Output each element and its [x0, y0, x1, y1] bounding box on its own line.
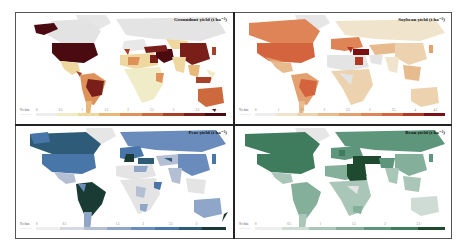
legend-tick: 1.5	[301, 108, 305, 112]
legend-ticks: 0 0.5 1 1.5 2 2.5 3+	[36, 222, 226, 226]
soybean-yield-map-panel: Soybean yield (t ha⁻¹) No data ———— 0 1 …	[235, 13, 451, 124]
legend-tick: 0	[255, 222, 257, 226]
legend-color-bar	[255, 113, 445, 116]
legend-tick: 0.5	[63, 222, 67, 226]
legend-ticks: 0 0.5 1 1.5 2 2.5+	[255, 222, 445, 226]
panel-title: Bean yield (t ha⁻¹)	[405, 129, 445, 135]
legend-tick: 1.5	[104, 108, 108, 112]
legend-tick: 2	[142, 222, 144, 226]
panel-title: Groundnut yield (t ha⁻¹)	[174, 16, 227, 22]
bean-yield-map-panel: Bean yield (t ha⁻¹) No data ———— 0 0.5 1…	[235, 126, 451, 238]
legend-tick: 3	[173, 108, 175, 112]
horizontal-panel-divider	[15, 124, 452, 126]
legend-tick: 2	[323, 108, 325, 112]
color-legend: No data ———— 0 1 1.5 2 2.5 3 3.5 4 4.5	[239, 108, 447, 118]
legend-color-bar	[255, 227, 445, 230]
color-legend: No data ———— 0 0.5 1 1.5 2 2.5+	[239, 222, 447, 232]
legend-tick: 1	[278, 108, 280, 112]
no-data-swatch-label: ————	[239, 112, 251, 116]
legend-tick: 4	[415, 108, 417, 112]
legend-tick: 2.5	[346, 108, 350, 112]
legend-tick: 1	[89, 222, 91, 226]
legend-ticks: 0 0.5 1 1.5 2 2.5 3 3.5 4+	[36, 108, 226, 112]
legend-tick: 3.5	[196, 108, 200, 112]
panel-title: Peas yield (t ha⁻¹)	[188, 129, 227, 135]
legend-tick: 1.5	[116, 222, 120, 226]
color-legend: No data ———— 0 0.5 1 1.5 2 2.5 3+	[20, 222, 228, 232]
legend-tick: 0	[255, 108, 257, 112]
no-data-swatch-label: ————	[239, 226, 251, 230]
legend-tick: 1	[320, 222, 322, 226]
legend-tick: 0	[36, 222, 38, 226]
legend-tick: 3+	[196, 222, 199, 226]
legend-tick: 2.5	[150, 108, 154, 112]
legend-ticks: 0 1 1.5 2 2.5 3 3.5 4 4.5	[255, 108, 445, 112]
legend-tick: 3.5	[392, 108, 396, 112]
legend-tick: 4.5	[434, 108, 438, 112]
legend-tick: 2	[127, 108, 129, 112]
legend-tick: 3	[369, 108, 371, 112]
peas-yield-map-panel: Peas yield (t ha⁻¹) No data ———— 0 0.5 1…	[16, 126, 233, 238]
legend-tick: 0.5	[287, 222, 291, 226]
legend-tick: 4+	[215, 108, 218, 112]
panel-title: Soybean yield (t ha⁻¹)	[398, 16, 445, 22]
no-data-swatch-label: ————	[20, 112, 32, 116]
legend-tick: 1	[82, 108, 84, 112]
groundnut-yield-map-panel: Groundnut yield (t ha⁻¹) No data ———— 0 …	[16, 13, 233, 124]
legend-tick: 2	[384, 222, 386, 226]
color-legend: No data ———— 0 0.5 1 1.5 2 2.5 3 3.5 4+	[20, 108, 228, 118]
legend-tick: 2.5+	[417, 222, 422, 226]
legend-tick: 2.5	[169, 222, 173, 226]
legend-tick: 1.5	[352, 222, 356, 226]
legend-color-bar	[36, 227, 226, 230]
legend-tick: 0.5	[59, 108, 63, 112]
legend-tick: 0	[36, 108, 38, 112]
no-data-swatch-label: ————	[20, 226, 32, 230]
legend-color-bar	[36, 113, 226, 116]
